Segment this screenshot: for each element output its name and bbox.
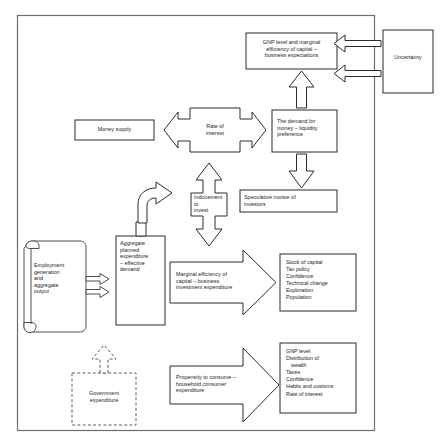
- arrow-demand-to-gnp-up: [289, 71, 314, 108]
- list-item: Rate of interest: [286, 391, 356, 398]
- node-marginal-efficiency-arrow: [170, 250, 276, 315]
- node-demand-for-money-box: [272, 110, 337, 152]
- node-speculative-motive-box: [240, 190, 337, 212]
- node-rate-of-interest-doublearrow: [164, 108, 266, 152]
- list-item: Exploration: [286, 287, 356, 294]
- node-employment-generation-scroll: [24, 241, 86, 332]
- list-item: Habits and customs: [286, 383, 356, 390]
- node-gnp-marginal-box: [246, 33, 337, 69]
- list-item: Confidence: [286, 273, 356, 280]
- arrow-government-expenditure-up-dashed: [92, 345, 116, 373]
- list-item: GNP level: [286, 348, 356, 355]
- node-aggregate-planned-expenditure-box: [116, 236, 165, 325]
- arrow-employment-to-ape-lower: [86, 287, 109, 298]
- arrow-demand-to-speculative-down: [289, 154, 314, 188]
- list-item: Population: [286, 294, 356, 301]
- node-inducement-to-invest-doublearrow: [191, 163, 227, 246]
- node-government-expenditure-box: [72, 373, 136, 425]
- list-item: Distribution of: [286, 355, 356, 362]
- investment-determinants-list: Stock of capital Tax policy Confidence T…: [286, 259, 356, 302]
- node-money-supply-box: [75, 120, 154, 140]
- list-item: Confidence: [286, 376, 356, 383]
- list-item: Taxes: [286, 369, 356, 376]
- list-item: Technical change: [286, 280, 356, 287]
- arrow-employment-to-ape-upper: [86, 274, 109, 285]
- arrow-ape-curved-to-inducement: [138, 182, 172, 223]
- list-item: wealth: [286, 362, 356, 369]
- list-item: Tax policy: [286, 266, 356, 273]
- diagram-graphics-layer: [0, 0, 441, 444]
- list-item: Stock of capital: [286, 259, 356, 266]
- node-uncertainty-box: [383, 30, 433, 93]
- scroll-curl-top: [26, 241, 39, 249]
- diagram-canvas: Uncertainty GNP level and marginal effic…: [0, 0, 441, 444]
- node-propensity-to-consume-arrow: [170, 348, 279, 422]
- connector-stub-above-ape: [136, 222, 146, 236]
- scroll-curl-bottom: [24, 323, 36, 333]
- consumption-determinants-list: GNP level Distribution of wealth Taxes C…: [286, 348, 356, 398]
